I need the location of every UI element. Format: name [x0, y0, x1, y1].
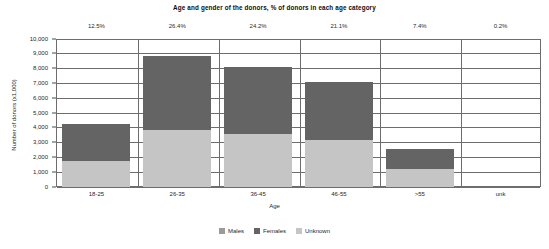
y-axis-title: Number of donors (x1,000) — [11, 55, 17, 175]
x-axis-tick-label: 36-45 — [218, 191, 299, 203]
bar-segment-unknown[interactable] — [224, 134, 292, 187]
bar-slot — [137, 39, 218, 187]
stacked-bar[interactable] — [62, 124, 130, 186]
y-axis-tick-label: 5,000 — [33, 110, 48, 116]
x-axis-title: Age — [0, 203, 549, 209]
bar-slot — [298, 39, 379, 187]
legend-item[interactable]: Males — [219, 228, 244, 234]
x-axis-tick-label: 46-55 — [298, 191, 379, 203]
y-axis-tick-label: 4,000 — [33, 124, 48, 130]
y-axis-tick-label: 7,000 — [33, 80, 48, 86]
percent-label: 7.4% — [379, 20, 460, 32]
bar-segment-females[interactable] — [143, 56, 211, 131]
percent-label: 12.5% — [56, 20, 137, 32]
stacked-bar[interactable] — [143, 56, 211, 187]
legend-swatch-icon — [254, 228, 260, 234]
y-axis-tick-label: 1,000 — [33, 169, 48, 175]
bar-segment-unknown[interactable] — [62, 161, 130, 186]
chart-title: Age and gender of the donors, % of donor… — [0, 4, 549, 11]
bar-segment-females[interactable] — [386, 149, 454, 169]
legend-item[interactable]: Females — [254, 228, 286, 234]
bar-segment-females[interactable] — [305, 82, 373, 140]
y-axis-tick-label: 9,000 — [33, 50, 48, 56]
percent-label: 26.4% — [137, 20, 218, 32]
y-axis-tick-label: 8,000 — [33, 65, 48, 71]
bar-slot — [379, 39, 460, 187]
legend-swatch-icon — [296, 228, 302, 234]
x-axis-tick-label: unk — [460, 191, 541, 203]
y-axis-tick-label: 10,000 — [30, 36, 48, 42]
y-axis: Number of donors (x1,000) 10,0009,0008,0… — [0, 0, 54, 249]
chart-container: Age and gender of the donors, % of donor… — [0, 0, 549, 249]
gridline — [57, 187, 540, 188]
bar-slot — [56, 39, 137, 187]
legend-label: Unknown — [305, 228, 330, 234]
bar-slot — [218, 39, 299, 187]
percent-label: 21.1% — [298, 20, 379, 32]
bar-segment-unknown[interactable] — [305, 140, 373, 187]
x-axis-tick-labels: 18-2526-3536-4546-55>55unk — [56, 191, 541, 203]
legend-item[interactable]: Unknown — [296, 228, 330, 234]
percent-label-row: 12.5%26.4%24.2%21.1%7.4%0.2% — [56, 20, 541, 32]
y-axis-tick-label: 2,000 — [33, 154, 48, 160]
legend-label: Females — [263, 228, 286, 234]
y-axis-tick-label: 6,000 — [33, 95, 48, 101]
legend-label: Males — [228, 228, 244, 234]
bar-group — [56, 39, 541, 187]
bar-segment-unknown[interactable] — [143, 130, 211, 186]
bar-segment-unknown[interactable] — [386, 169, 454, 187]
legend-swatch-icon — [219, 228, 225, 234]
bar-segment-females[interactable] — [62, 124, 130, 161]
percent-label: 0.2% — [460, 20, 541, 32]
chart-legend: MalesFemalesUnknown — [0, 228, 549, 234]
stacked-bar[interactable] — [305, 82, 373, 186]
x-axis-tick-label: 18-25 — [56, 191, 137, 203]
x-axis-tick-label: >55 — [379, 191, 460, 203]
y-axis-tick-label: 3,000 — [33, 139, 48, 145]
percent-label: 24.2% — [218, 20, 299, 32]
x-axis-tick-label: 26-35 — [137, 191, 218, 203]
bar-segment-females[interactable] — [224, 67, 292, 134]
stacked-bar[interactable] — [386, 149, 454, 187]
stacked-bar[interactable] — [224, 67, 292, 187]
y-axis-tick-label: 0 — [45, 184, 48, 190]
bar-slot — [460, 39, 541, 187]
